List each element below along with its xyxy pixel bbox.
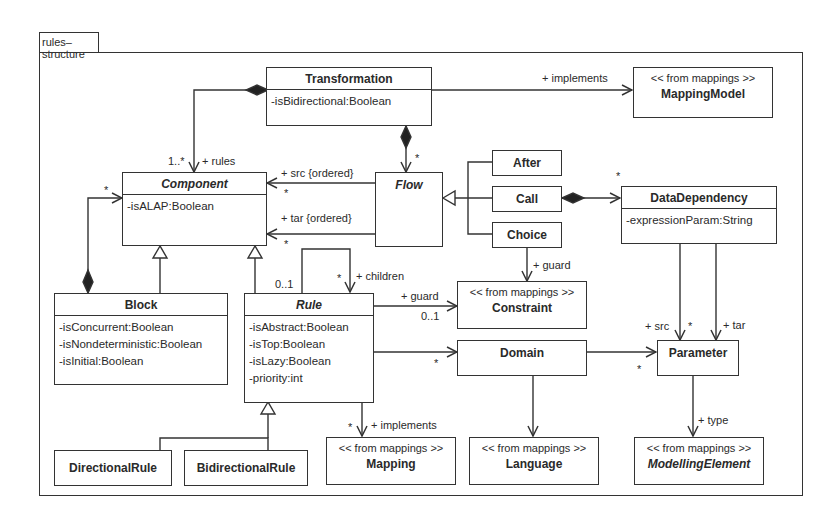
class-after[interactable]: After [492, 150, 562, 176]
class-name: Call [493, 187, 561, 206]
class-name: Block [55, 294, 227, 316]
role-label: + rules [202, 155, 235, 167]
class-name: ModellingElement [635, 454, 763, 471]
multiplicity-label: * [688, 320, 692, 332]
role-label: + children [356, 270, 404, 282]
class-choice[interactable]: Choice [492, 222, 562, 248]
class-bidirectional-rule[interactable]: BidirectionalRule [184, 450, 308, 486]
class-name: Parameter [658, 341, 738, 360]
attribute: -isInitial:Boolean [59, 353, 223, 370]
stereotype: << from mappings >> [634, 68, 772, 84]
attribute: -isConcurrent:Boolean [59, 319, 223, 336]
class-name: Flow [376, 173, 442, 192]
class-name: MappingModel [634, 84, 772, 101]
class-name: DataDependency [622, 187, 776, 209]
class-directional-rule[interactable]: DirectionalRule [54, 450, 172, 486]
multiplicity-label: * [616, 170, 620, 182]
attribute: -isAbstract:Boolean [249, 319, 369, 336]
class-block[interactable]: Block -isConcurrent:Boolean -isNondeterm… [54, 293, 228, 385]
attribute: -expressionParam:String [626, 212, 772, 229]
class-name: Domain [458, 341, 586, 360]
role-label: + tar [723, 319, 745, 331]
attribute: -isTop:Boolean [249, 336, 369, 353]
stereotype: << from mappings >> [470, 438, 598, 454]
uml-class-diagram: rules–structure [0, 0, 826, 524]
attribute: -isNondeterministic:Boolean [59, 336, 223, 353]
attribute: -isLazy:Boolean [249, 353, 369, 370]
class-name: After [493, 151, 561, 170]
class-name: Mapping [327, 454, 455, 471]
class-name: Rule [245, 294, 373, 316]
class-name: DirectionalRule [55, 451, 171, 475]
class-mapping[interactable]: << from mappings >> Mapping [326, 437, 456, 485]
role-label: + src {ordered} [281, 167, 353, 179]
role-label: + tar {ordered} [281, 212, 352, 224]
multiplicity-label: * [637, 363, 641, 375]
class-domain[interactable]: Domain [457, 340, 587, 376]
class-call[interactable]: Call [492, 186, 562, 212]
class-constraint[interactable]: << from mappings >> Constraint [457, 281, 587, 329]
class-data-dependency[interactable]: DataDependency -expressionParam:String [621, 186, 777, 244]
class-name: BidirectionalRule [185, 451, 307, 475]
multiplicity-label: * [348, 421, 352, 433]
multiplicity-label: 0..1 [275, 278, 293, 290]
multiplicity-label: * [434, 357, 438, 369]
class-modelling-element[interactable]: << from mappings >> ModellingElement [634, 437, 764, 485]
stereotype: << from mappings >> [327, 438, 455, 454]
role-label: + type [698, 414, 728, 426]
class-rule[interactable]: Rule -isAbstract:Boolean -isTop:Boolean … [244, 293, 374, 403]
multiplicity-label: 0..1 [421, 310, 439, 322]
multiplicity-label: * [104, 184, 108, 196]
class-transformation[interactable]: Transformation -isBidirectional:Boolean [266, 67, 432, 126]
role-label: + guard [401, 290, 439, 302]
multiplicity-label: * [337, 272, 341, 284]
class-name: Language [470, 454, 598, 471]
class-mapping-model[interactable]: << from mappings >> MappingModel [633, 67, 773, 118]
multiplicity-label: * [284, 187, 288, 199]
class-name: Component [123, 173, 266, 195]
role-label: + implements [542, 72, 608, 84]
attribute: -priority:int [249, 370, 369, 387]
multiplicity-label: * [415, 152, 419, 164]
stereotype: << from mappings >> [635, 438, 763, 454]
multiplicity-label: * [284, 238, 288, 250]
class-component[interactable]: Component -isALAP:Boolean [122, 172, 267, 246]
class-parameter[interactable]: Parameter [657, 340, 739, 376]
class-name: Transformation [267, 68, 431, 90]
role-label: + implements [371, 419, 437, 431]
attribute: -isALAP:Boolean [127, 198, 262, 215]
class-name: Constraint [458, 298, 586, 315]
stereotype: << from mappings >> [458, 282, 586, 298]
class-name: Choice [493, 223, 561, 242]
class-flow[interactable]: Flow [375, 172, 443, 247]
class-language[interactable]: << from mappings >> Language [469, 437, 599, 485]
role-label: + src [645, 320, 669, 332]
multiplicity-label: 1..* [168, 155, 185, 167]
role-label: + guard [533, 259, 571, 271]
attribute: -isBidirectional:Boolean [271, 93, 427, 110]
